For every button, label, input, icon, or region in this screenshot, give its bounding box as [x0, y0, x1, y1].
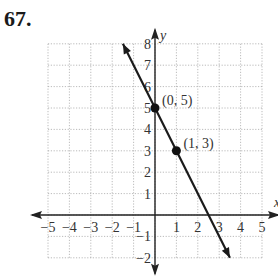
y-tick-label: −1	[136, 229, 151, 244]
x-axis-label: x	[273, 195, 278, 210]
point-label: (1, 3)	[183, 136, 214, 152]
y-tick-label: 3	[144, 144, 151, 159]
y-tick-label: 1	[144, 187, 151, 202]
line-end-arrow-icon	[222, 247, 230, 258]
x-tick-label: 1	[173, 220, 180, 235]
y-tick-label: 4	[144, 122, 151, 137]
x-tick-label: 4	[237, 220, 244, 235]
y-tick-label: 8	[144, 37, 151, 52]
x-tick-label: −4	[62, 220, 77, 235]
data-point	[151, 104, 160, 113]
line-start-arrow-icon	[123, 44, 131, 55]
x-tick-label: 2	[194, 220, 201, 235]
y-tick-label: −2	[136, 251, 151, 266]
x-tick-label: −3	[83, 220, 98, 235]
data-point	[172, 146, 181, 155]
point-label: (0, 5)	[162, 93, 193, 109]
coordinate-plane: xy−5−4−3−2−112345−2−112345678(0, 5)(1, 3…	[0, 0, 278, 278]
y-axis-label: y	[158, 28, 167, 43]
x-tick-label: 5	[259, 220, 266, 235]
y-tick-label: 5	[144, 101, 151, 116]
x-tick-label: −5	[41, 220, 56, 235]
x-tick-label: −2	[105, 220, 120, 235]
y-tick-label: 7	[144, 58, 151, 73]
y-tick-label: 2	[144, 165, 151, 180]
